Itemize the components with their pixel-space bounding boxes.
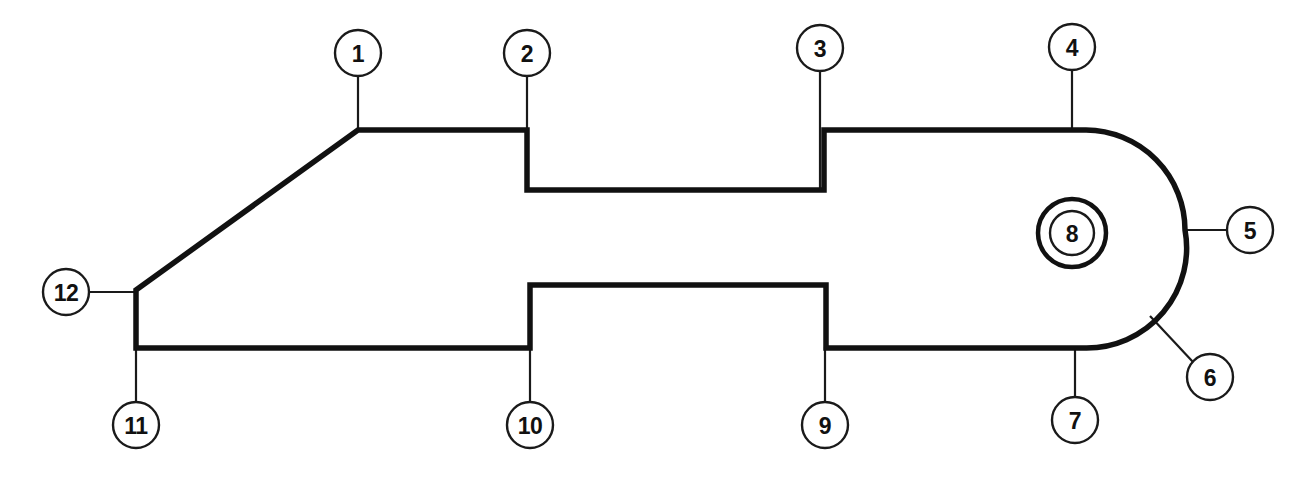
diagram-canvas: 123456789101112 — [0, 0, 1301, 477]
callout-10[interactable]: 10 — [507, 402, 553, 448]
callout-6[interactable]: 6 — [1187, 354, 1233, 400]
callout-5[interactable]: 5 — [1227, 207, 1273, 253]
callout-1[interactable]: 1 — [335, 30, 381, 76]
callout-label-8: 8 — [1066, 221, 1079, 247]
callout-label-5: 5 — [1244, 218, 1257, 244]
callout-7[interactable]: 7 — [1052, 397, 1098, 443]
callout-label-4: 4 — [1066, 35, 1079, 61]
callout-11[interactable]: 11 — [113, 402, 159, 448]
part-outline-diagram: 123456789101112 — [0, 0, 1301, 477]
callout-label-9: 9 — [819, 413, 831, 439]
callout-label-11: 11 — [124, 413, 148, 439]
callout-4[interactable]: 4 — [1049, 24, 1095, 70]
callout-3[interactable]: 3 — [797, 25, 843, 71]
callout-8[interactable]: 8 — [1050, 211, 1094, 255]
callout-label-2: 2 — [521, 41, 533, 67]
callout-12[interactable]: 12 — [43, 269, 89, 315]
callout-label-6: 6 — [1204, 365, 1216, 391]
part-outline-shape — [136, 130, 1187, 348]
callout-label-1: 1 — [352, 41, 365, 67]
callout-2[interactable]: 2 — [504, 30, 550, 76]
callout-label-7: 7 — [1069, 408, 1081, 434]
callout-label-10: 10 — [518, 413, 543, 439]
callout-label-12: 12 — [54, 280, 79, 306]
callout-label-3: 3 — [814, 36, 826, 62]
callout-layer: 123456789101112 — [43, 24, 1273, 448]
callout-9[interactable]: 9 — [802, 402, 848, 448]
